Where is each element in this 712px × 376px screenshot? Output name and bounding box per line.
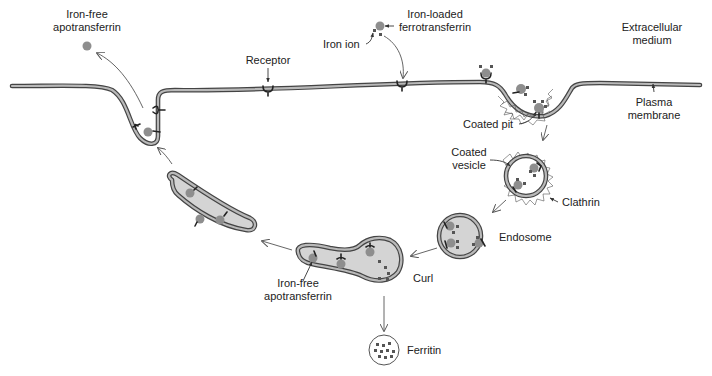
label-plasma-2: membrane [628,109,681,121]
endocytosis-diagram: Iron-free apotransferrin Iron-loaded fer… [0,0,712,376]
label-iron-free-top-2: apotransferrin [53,21,121,33]
curl-to-vesicle-arrow [262,241,292,250]
vesicle-to-membrane-arrow [158,148,172,164]
label-clathrin: Clathrin [562,196,600,208]
label-extracellular-2: medium [632,34,671,46]
label-coated-pit: Coated pit [463,118,513,130]
label-iron-loaded-1: Iron-loaded [407,8,463,20]
label-iron-free-bottom-2: apotransferrin [264,290,332,302]
label-iron-free-top-1: Iron-free [66,8,108,20]
label-extracellular-1: Extracellular [622,21,683,33]
binding-arrow [384,36,403,78]
label-iron-free-bottom-1: Iron-free [277,277,319,289]
label-curl: Curl [413,272,433,284]
free-apotransferrin [83,42,92,51]
label-coated-vesicle-1: Coated [451,146,486,158]
coated-vesicle [503,152,553,205]
ferritin [369,335,399,365]
diagram-canvas: Iron-free apotransferrin Iron-loaded fer… [0,0,712,376]
plasma-membrane [12,82,700,144]
pit-to-vesicle-arrow [543,125,547,140]
label-coated-vesicle-2: vesicle [452,159,486,171]
label-iron-ion: Iron ion [323,38,360,50]
label-ferritin: Ferritin [407,344,441,356]
recycling-vesicle [169,173,255,230]
label-endosome: Endosome [499,231,552,243]
endosome-to-curl-arrow [411,248,437,256]
labels: Iron-free apotransferrin Iron-loaded fer… [53,8,683,356]
label-plasma-1: Plasma [636,96,674,108]
vesicle-to-endosome-arrow [493,200,506,212]
label-receptor: Receptor [246,54,291,66]
curl-compartment [298,238,401,281]
endosome [439,215,485,257]
label-iron-loaded-2: ferrotransferrin [399,21,471,33]
free-ferrotransferrin [373,22,385,37]
apotransferrin-in-pit [144,128,153,137]
